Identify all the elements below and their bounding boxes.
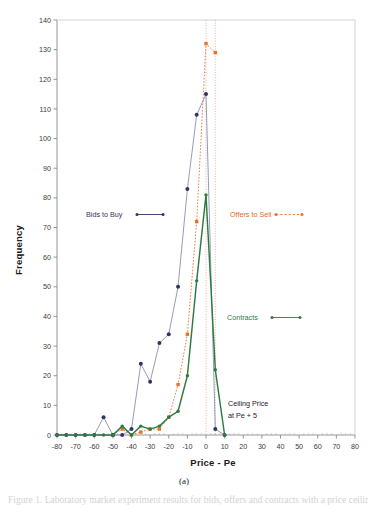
data-point-marker <box>93 433 96 436</box>
x-tick-label: 40 <box>277 442 285 451</box>
y-tick-label: 90 <box>43 164 51 173</box>
data-point-marker <box>185 187 189 191</box>
data-point-marker <box>83 433 86 436</box>
x-tick-label: 30 <box>258 442 266 451</box>
data-point-marker <box>223 433 226 436</box>
data-point-marker <box>195 279 198 282</box>
x-tick-label: 50 <box>295 442 303 451</box>
data-point-marker <box>139 424 142 427</box>
x-tick-label: 60 <box>314 442 322 451</box>
x-tick-label: -60 <box>89 442 99 451</box>
data-point-marker <box>74 433 77 436</box>
data-point-marker <box>158 427 161 430</box>
annotation-bids-to-buy-label: Bids to Buy <box>86 210 123 219</box>
x-tick-label: 70 <box>332 442 340 451</box>
data-point-marker <box>176 285 180 289</box>
y-tick-label: 100 <box>39 134 51 143</box>
data-point-marker <box>167 416 170 419</box>
data-point-marker <box>158 424 161 427</box>
data-point-marker <box>148 380 152 384</box>
data-point-marker <box>204 42 207 45</box>
y-tick-label: 110 <box>40 105 51 114</box>
data-point-marker <box>139 362 143 366</box>
data-point-marker <box>55 433 58 436</box>
data-point-marker <box>195 113 199 117</box>
annotation-offers-to-sell-label: Offers to Sell <box>230 210 272 219</box>
data-point-marker <box>186 374 189 377</box>
data-point-marker <box>176 383 179 386</box>
x-tick-label: -20 <box>164 442 174 451</box>
data-point-marker <box>120 433 124 437</box>
y-tick-label: 130 <box>39 45 51 54</box>
x-tick-label: -40 <box>126 442 136 451</box>
ceiling-price-line2: at Pe + 5 <box>228 411 257 420</box>
data-point-marker <box>157 341 161 345</box>
data-point-marker <box>195 220 198 223</box>
data-point-marker <box>102 415 106 419</box>
data-point-marker <box>186 333 189 336</box>
data-point-marker <box>214 368 217 371</box>
data-point-marker <box>130 433 133 436</box>
x-tick-label: -70 <box>70 442 80 451</box>
data-point-marker <box>130 427 134 431</box>
data-point-marker <box>214 51 217 54</box>
y-tick-label: 20 <box>43 371 51 380</box>
figure-caption: (a) <box>179 476 189 486</box>
data-point-marker <box>65 433 68 436</box>
y-tick-label: 30 <box>43 342 51 351</box>
data-point-marker <box>204 193 207 196</box>
y-tick-label: 60 <box>43 253 51 262</box>
data-point-marker <box>204 92 208 96</box>
x-tick-label: 10 <box>221 442 229 451</box>
x-tick-label: -50 <box>108 442 118 451</box>
y-tick-label: 140 <box>39 16 51 25</box>
x-tick-label: -30 <box>145 442 155 451</box>
page-body-text-fragment: Figure 1. Laboratory market experiment r… <box>0 495 368 505</box>
y-axis-title: Frequency <box>13 225 24 275</box>
data-point-marker <box>111 433 114 436</box>
x-tick-label: -10 <box>182 442 192 451</box>
y-tick-label: 50 <box>43 282 51 291</box>
data-point-marker <box>167 332 171 336</box>
y-tick-label: 40 <box>43 312 51 321</box>
data-point-marker <box>139 430 142 433</box>
y-tick-label: 80 <box>43 193 51 202</box>
annotation-contracts-label: Contracts <box>227 313 258 322</box>
x-tick-label: -80 <box>52 442 62 451</box>
y-tick-label: 0 <box>47 431 51 440</box>
x-tick-label: 80 <box>351 442 359 451</box>
x-axis-title: Price - Pe <box>190 457 235 468</box>
data-point-marker <box>213 427 217 431</box>
y-tick-label: 70 <box>43 223 51 232</box>
y-tick-label: 120 <box>39 75 51 84</box>
data-point-marker <box>102 433 105 436</box>
data-point-marker <box>176 410 179 413</box>
ceiling-price-line1: Ceiling Price <box>228 399 268 408</box>
x-tick-label: 20 <box>239 442 247 451</box>
y-tick-label: 10 <box>43 401 51 410</box>
x-tick-label: 0 <box>204 442 208 451</box>
data-point-marker <box>120 424 123 427</box>
data-point-marker <box>148 427 151 430</box>
